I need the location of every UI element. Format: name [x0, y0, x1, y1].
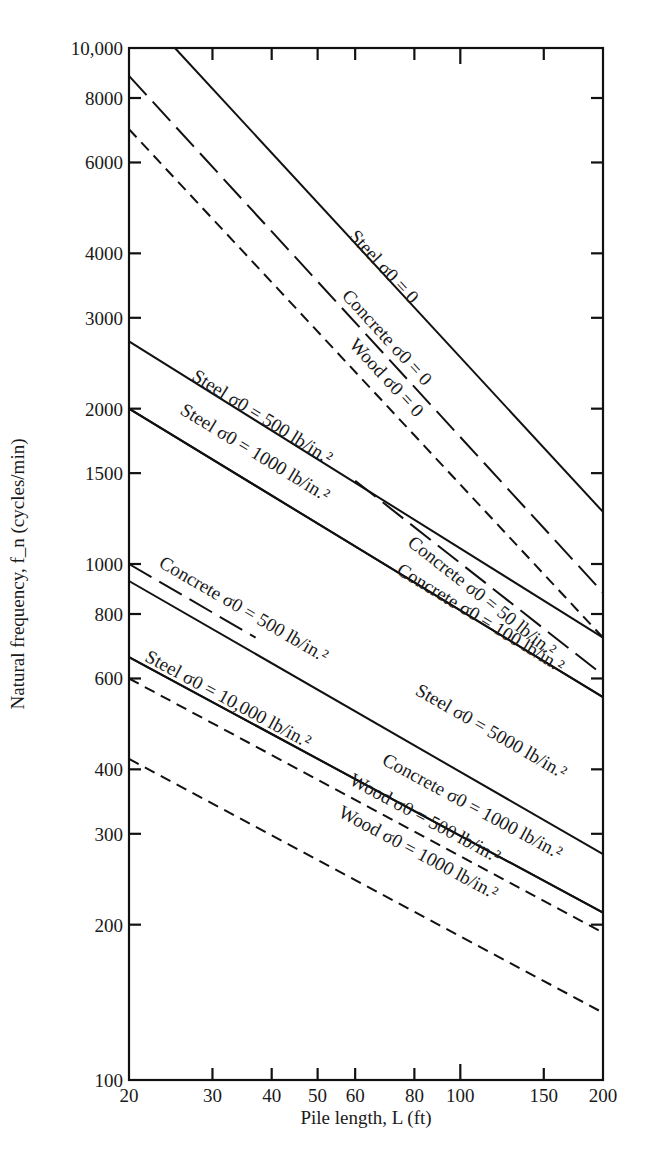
plot-frame [129, 48, 603, 1080]
y-tick-label: 2000 [85, 399, 123, 420]
x-tick-labels: 203040506080100150200 [120, 1085, 618, 1106]
y-tick-labels: 1002003004006008001000150020003000400060… [71, 38, 123, 1091]
curve-label: Concrete σ0 = 100 lb/in.² [393, 559, 568, 677]
y-tick-label: 10,000 [71, 38, 123, 59]
x-tick-label: 40 [262, 1085, 281, 1106]
x-tick-label: 80 [405, 1085, 424, 1106]
curve-label: Steel σ0 = 5000 lb/in.² [412, 679, 571, 783]
y-tick-label: 1000 [85, 554, 123, 575]
axis-ticks [129, 48, 603, 1080]
y-tick-label: 6000 [85, 152, 123, 173]
y-tick-label: 1500 [85, 463, 123, 484]
y-tick-label: 8000 [85, 88, 123, 109]
frequency-chart: 203040506080100150200 100200300400600800… [0, 0, 655, 1174]
y-tick-label: 4000 [85, 243, 123, 264]
y-tick-label: 200 [95, 915, 124, 936]
curve-label: Concrete σ0 = 500 lb/in.² [156, 552, 333, 667]
x-tick-label: 30 [203, 1085, 222, 1106]
series-line-concrete-5 [355, 481, 603, 675]
y-tick-label: 300 [95, 824, 124, 845]
x-tick-label: 60 [346, 1085, 365, 1106]
curve-labels: Steel σ0 = 0Concrete σ0 = 0Wood σ0 = 0St… [142, 226, 571, 904]
series-line-concrete-1 [129, 76, 603, 593]
y-tick-label: 800 [95, 604, 124, 625]
x-tick-label: 150 [530, 1085, 559, 1106]
plot-border [129, 48, 603, 1080]
x-tick-label: 200 [589, 1085, 618, 1106]
y-tick-label: 100 [95, 1070, 124, 1091]
y-tick-label: 3000 [85, 308, 123, 329]
y-axis-title: Natural frequency, f_n (cycles/min) [7, 439, 29, 710]
y-tick-label: 600 [95, 668, 124, 689]
x-tick-label: 100 [446, 1085, 475, 1106]
series-lines [129, 48, 603, 1013]
x-tick-label: 50 [308, 1085, 327, 1106]
x-axis-title: Pile length, L (ft) [300, 1107, 431, 1129]
y-tick-label: 400 [95, 759, 124, 780]
